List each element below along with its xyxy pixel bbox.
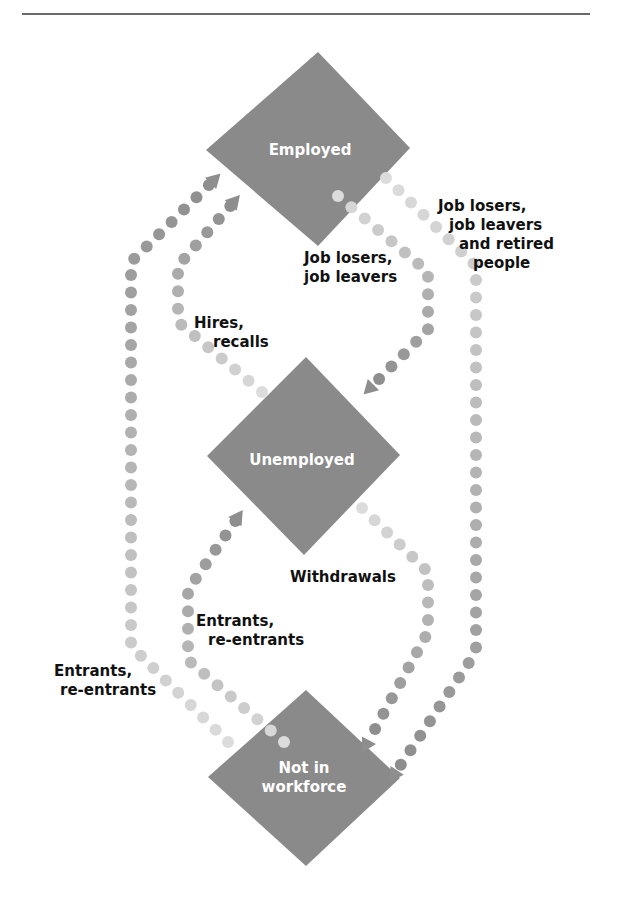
flow-dot xyxy=(405,744,417,756)
flow-dot xyxy=(372,224,384,236)
flow-dot xyxy=(125,584,137,596)
label-line: Entrants, xyxy=(54,662,156,681)
flow-dot xyxy=(398,348,410,360)
flow-dot xyxy=(141,241,153,253)
flow-dot xyxy=(153,228,165,240)
flow-dot xyxy=(470,502,482,514)
flow-dot xyxy=(394,677,406,689)
flow-dot xyxy=(175,319,187,331)
flow-dot xyxy=(185,656,197,668)
flow-dot xyxy=(125,532,137,544)
flow-dot xyxy=(470,309,482,321)
flow-dot xyxy=(125,427,137,439)
flow-dot xyxy=(178,204,190,216)
node-not-in-workforce-line2: workforce xyxy=(262,778,347,797)
flow-dot xyxy=(419,631,431,643)
flow-dot xyxy=(395,759,407,771)
flow-dot xyxy=(414,730,426,742)
flow-dot xyxy=(125,269,137,281)
flow-dot xyxy=(434,701,446,713)
flow-dot xyxy=(125,462,137,474)
flow-dot xyxy=(125,497,137,509)
label-line: re-entrants xyxy=(54,681,156,700)
flow-dot xyxy=(125,287,137,299)
node-not-in-workforce-line1: Not in xyxy=(262,759,347,778)
flow-label-entrants-outer: Entrants, re-entrants xyxy=(54,662,156,700)
flow-label-entrants-inner: Entrants, re-entrants xyxy=(196,612,304,650)
flow-dot xyxy=(125,637,137,649)
flow-dot xyxy=(166,216,178,228)
flow-dot xyxy=(278,736,290,748)
flow-dot xyxy=(443,686,455,698)
flow-dot xyxy=(125,549,137,561)
flow-dot xyxy=(213,213,225,225)
flow-dot xyxy=(470,537,482,549)
flow-dot xyxy=(422,614,434,626)
node-employed-label: Employed xyxy=(269,141,352,160)
flow-dot xyxy=(125,357,137,369)
flow-dot xyxy=(377,708,389,720)
flow-dot xyxy=(225,691,237,703)
flow-dot xyxy=(410,336,422,348)
flow-dot xyxy=(470,449,482,461)
node-unemployed-label: Unemployed xyxy=(249,451,355,470)
flow-dot xyxy=(470,292,482,304)
flow-dot xyxy=(125,479,137,491)
flow-dot xyxy=(422,579,434,591)
flow-dot xyxy=(470,554,482,566)
flow-label-job-losers-outer: Job losers, job leavers and retired peop… xyxy=(438,197,554,273)
flow-dot xyxy=(220,529,232,541)
flow-dot xyxy=(256,386,268,398)
flow-dot xyxy=(359,213,371,225)
flow-dot xyxy=(172,285,184,297)
label-line: re-entrants xyxy=(196,631,304,650)
flow-dot xyxy=(422,323,434,335)
flow-dot xyxy=(470,624,482,636)
flow-dot xyxy=(216,352,228,364)
flow-dot xyxy=(470,607,482,619)
flow-dot xyxy=(197,711,209,723)
flow-dot xyxy=(470,274,482,286)
flow-dot xyxy=(125,409,137,421)
flow-dot xyxy=(332,190,344,202)
flow-dot xyxy=(125,392,137,404)
flow-dot xyxy=(125,602,137,614)
label-line: job leavers xyxy=(304,268,397,287)
flow-dot xyxy=(135,650,147,662)
flow-dot xyxy=(172,268,184,280)
flow-dot xyxy=(380,172,392,184)
flow-dot xyxy=(125,619,137,631)
flow-dot xyxy=(125,444,137,456)
label-line: job leavers xyxy=(438,216,554,235)
flow-dot xyxy=(222,736,234,748)
flow-dot xyxy=(212,679,224,691)
flow-dot xyxy=(356,502,368,514)
flow-dot xyxy=(190,240,202,252)
flow-dot xyxy=(405,197,417,209)
flow-dot xyxy=(424,715,436,727)
flow-dot xyxy=(411,646,423,658)
flow-dot xyxy=(412,258,424,270)
flow-dot xyxy=(419,563,431,575)
flow-dot xyxy=(369,723,381,735)
flow-dot xyxy=(470,344,482,356)
node-not-in-workforce-label: Not in workforce xyxy=(262,759,347,797)
flow-dot xyxy=(470,379,482,391)
flow-dot xyxy=(210,544,222,556)
flow-dot xyxy=(125,322,137,334)
label-line: Job losers, xyxy=(438,197,554,216)
flow-dot xyxy=(422,271,434,283)
flow-dot xyxy=(229,364,241,376)
flow-dot xyxy=(251,713,263,725)
flow-dot xyxy=(422,306,434,318)
flow-dot xyxy=(201,226,213,238)
flow-dot xyxy=(185,699,197,711)
flow-dot xyxy=(470,589,482,601)
flow-dot xyxy=(125,304,137,316)
flow-dot xyxy=(470,572,482,584)
flow-label-job-losers-inner: Job losers, job leavers xyxy=(304,249,397,287)
flow-dot xyxy=(172,687,184,699)
flow-label-withdrawals: Withdrawals xyxy=(290,568,396,587)
flow-dot xyxy=(191,191,203,203)
flow-dot xyxy=(453,672,465,684)
